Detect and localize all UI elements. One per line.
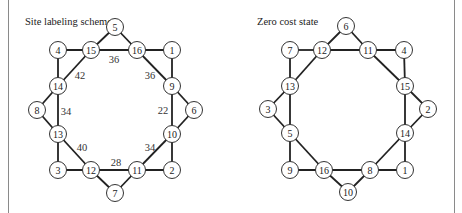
node-label: 16 xyxy=(319,165,329,176)
node-label: 2 xyxy=(170,165,175,176)
site-node-10: 10 xyxy=(340,184,357,201)
node-label: 14 xyxy=(400,128,410,139)
node-label: 15 xyxy=(400,81,410,92)
node-label: 11 xyxy=(132,165,142,176)
site-node-14: 14 xyxy=(50,78,67,95)
site-node-11: 11 xyxy=(129,162,146,179)
site-node-9: 9 xyxy=(164,78,181,95)
node-label: 16 xyxy=(132,45,142,56)
site-node-4: 4 xyxy=(50,42,67,59)
node-label: 6 xyxy=(344,21,349,32)
edge-weight-label: 40 xyxy=(77,142,88,153)
site-node-12: 12 xyxy=(83,162,100,179)
edge-weight-label: 34 xyxy=(145,142,156,153)
site-node-2: 2 xyxy=(420,101,437,118)
node-label: 12 xyxy=(317,45,327,56)
site-node-13: 13 xyxy=(282,78,299,95)
node-label: 8 xyxy=(368,165,373,176)
site-node-6: 6 xyxy=(186,102,203,119)
node-label: 9 xyxy=(170,81,175,92)
node-label: 4 xyxy=(56,45,61,56)
site-node-10: 10 xyxy=(164,126,181,143)
node-label: 1 xyxy=(170,45,175,56)
node-label: 5 xyxy=(113,22,118,33)
node-label: 4 xyxy=(402,45,407,56)
node-label: 12 xyxy=(86,165,96,176)
site-node-13: 13 xyxy=(50,126,67,143)
site-node-6: 6 xyxy=(338,18,355,35)
site-node-16: 16 xyxy=(316,162,333,179)
node-label: 2 xyxy=(426,104,431,115)
site-node-1: 1 xyxy=(397,162,414,179)
node-label: 7 xyxy=(288,45,293,56)
site-node-2: 2 xyxy=(164,162,181,179)
node-label: 14 xyxy=(53,81,63,92)
edge-weight-label: 36 xyxy=(145,70,156,81)
site-node-14: 14 xyxy=(397,125,414,142)
node-label: 5 xyxy=(288,128,293,139)
site-node-5: 5 xyxy=(107,19,124,36)
node-label: 13 xyxy=(285,81,295,92)
node-label: 10 xyxy=(167,129,177,140)
panel-right: Zero cost state67121141315325149168110 xyxy=(257,16,437,201)
site-node-8: 8 xyxy=(29,102,46,119)
panel-title: Zero cost state xyxy=(257,16,319,27)
node-label: 10 xyxy=(343,187,353,198)
panel-title: Site labeling scheme xyxy=(25,16,112,27)
site-node-3: 3 xyxy=(260,101,277,118)
node-label: 3 xyxy=(266,104,271,115)
node-label: 1 xyxy=(403,165,408,176)
site-node-7: 7 xyxy=(282,42,299,59)
edge-weight-label: 42 xyxy=(75,70,86,81)
edge-weight-label: 22 xyxy=(158,105,169,116)
site-node-11: 11 xyxy=(360,42,377,59)
edge-weight-label: 36 xyxy=(109,54,120,65)
edge-weight-label: 28 xyxy=(111,157,122,168)
node-label: 9 xyxy=(288,165,293,176)
node-label: 13 xyxy=(53,129,63,140)
node-label: 7 xyxy=(113,188,118,199)
site-node-9: 9 xyxy=(282,162,299,179)
site-node-1: 1 xyxy=(164,42,181,59)
node-label: 11 xyxy=(363,45,373,56)
edge-weight-label: 34 xyxy=(61,106,72,117)
site-node-15: 15 xyxy=(83,42,100,59)
site-node-3: 3 xyxy=(50,162,67,179)
site-node-15: 15 xyxy=(397,78,414,95)
panel-left: Site labeling scheme36423634224034285415… xyxy=(25,16,203,202)
node-label: 8 xyxy=(35,105,40,116)
node-label: 6 xyxy=(192,105,197,116)
graph-diagram: Site labeling scheme36423634224034285415… xyxy=(0,0,462,213)
node-label: 3 xyxy=(56,165,61,176)
site-node-4: 4 xyxy=(396,42,413,59)
site-node-16: 16 xyxy=(129,42,146,59)
node-label: 15 xyxy=(86,45,96,56)
site-node-8: 8 xyxy=(362,162,379,179)
site-node-5: 5 xyxy=(282,125,299,142)
site-node-7: 7 xyxy=(107,185,124,202)
site-node-12: 12 xyxy=(314,42,331,59)
